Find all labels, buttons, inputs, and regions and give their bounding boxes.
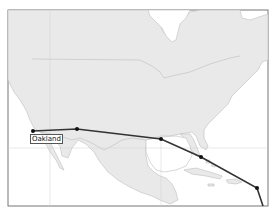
route-stop-marker[interactable]	[255, 186, 259, 190]
route-stop-marker[interactable]	[199, 155, 203, 159]
route-stop-marker[interactable]	[159, 137, 163, 141]
route-stop-marker[interactable]	[31, 129, 35, 133]
city-label-oakland[interactable]: Oakland	[30, 134, 63, 144]
route-stop-marker[interactable]	[75, 127, 79, 131]
route-map[interactable]	[0, 0, 274, 215]
land-jamaica	[208, 184, 214, 186]
